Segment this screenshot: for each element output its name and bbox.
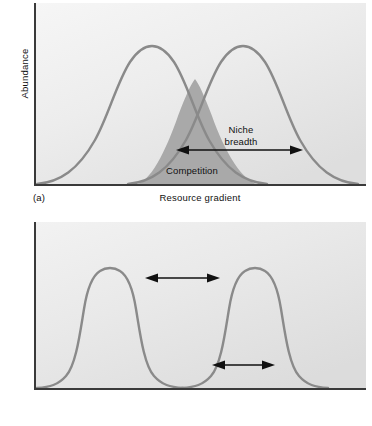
panel-a-plot xyxy=(0,0,372,213)
annotation-niche-breadth: Niche breadth xyxy=(206,124,276,147)
y-axis-label-a: Abundance xyxy=(0,68,30,79)
x-axis-label-a: Resource gradient xyxy=(110,192,290,203)
y-axis-label-a-text: Abundance xyxy=(19,49,30,99)
panel-a: Abundance (a) Resource gradient Niche br… xyxy=(0,0,372,213)
annotation-competition: Competition xyxy=(152,165,232,177)
panel-b-plot xyxy=(0,213,372,426)
figure-niche-breadth: Abundance (a) Resource gradient Niche br… xyxy=(0,0,372,426)
panel-b: Abundance (b) Resource gradient Divergen… xyxy=(0,213,372,426)
panel-tag-a: (a) xyxy=(33,192,45,203)
